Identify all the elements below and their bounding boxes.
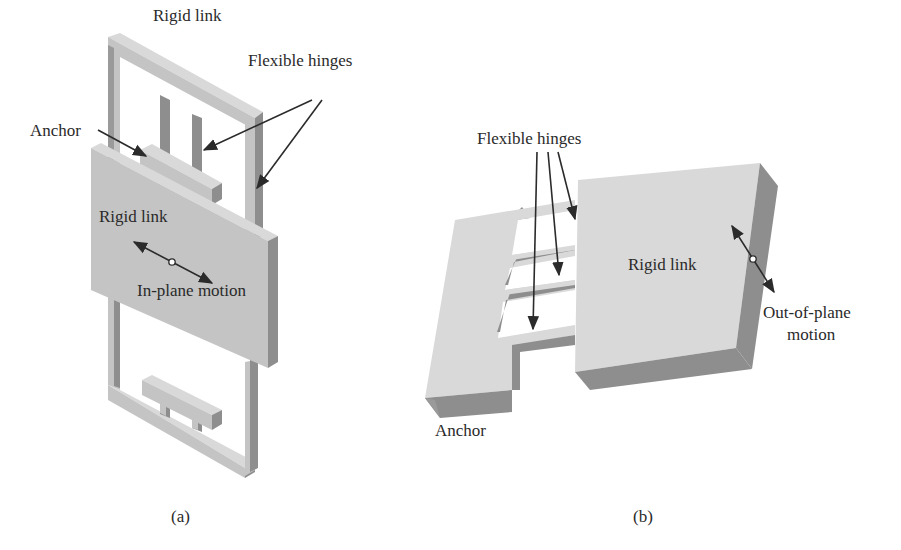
caption-b: (b) — [633, 507, 653, 526]
caption-a: (a) — [171, 507, 190, 526]
label-in-plane-motion: In-plane motion — [137, 281, 247, 300]
label-rigid-link-top: Rigid link — [153, 6, 222, 25]
panel-a: Rigid link Flexible hinges Anchor Rigid … — [30, 6, 352, 526]
label-out-of-plane-line1: Out-of-plane — [763, 303, 851, 322]
hinge-arrow-1 — [533, 152, 537, 329]
label-flexible-hinges: Flexible hinges — [248, 51, 352, 70]
label-out-of-plane-line2: motion — [787, 325, 836, 344]
rigid-link-block — [575, 163, 778, 390]
label-anchor: Anchor — [435, 421, 486, 440]
motion-pivot-icon — [750, 256, 756, 262]
label-anchor: Anchor — [30, 121, 81, 140]
panel-b: Flexible hinges Rigid link Out-of-plane … — [425, 129, 851, 526]
label-rigid-link-plate: Rigid link — [99, 207, 168, 226]
motion-pivot-icon — [169, 259, 175, 265]
hinge-arrow-2 — [257, 100, 322, 188]
label-rigid-link: Rigid link — [628, 255, 697, 274]
label-flexible-hinges: Flexible hinges — [477, 129, 581, 148]
compliant-mechanism-figure: Rigid link Flexible hinges Anchor Rigid … — [0, 0, 901, 550]
anchor-block — [425, 200, 575, 418]
